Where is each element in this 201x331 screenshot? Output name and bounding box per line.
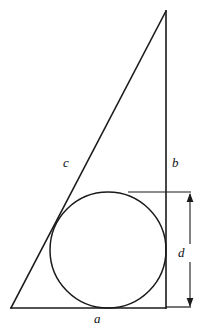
label-diameter-d: d xyxy=(177,245,186,260)
triangle-hypotenuse xyxy=(11,11,166,308)
dimension-arrow-down-icon xyxy=(187,298,194,307)
label-hypotenuse-c: c xyxy=(63,156,69,169)
figure-canvas xyxy=(0,0,201,331)
inscribed-circle xyxy=(50,192,166,308)
label-vertical-leg-b: b xyxy=(172,156,179,169)
geometry-figure: c b d a xyxy=(0,0,201,331)
dimension-arrow-up-icon xyxy=(187,193,194,202)
label-base-leg-a: a xyxy=(94,312,101,325)
